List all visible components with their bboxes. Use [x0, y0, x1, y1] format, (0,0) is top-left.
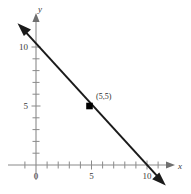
line-arrowhead-lower-right	[152, 173, 166, 186]
y-axis-arrowhead	[32, 13, 39, 22]
data-point-marker-5-5	[86, 103, 93, 110]
graph-figure: x y 0 5 10 5 10 (5,5)	[0, 0, 191, 194]
y-tick-label-10: 10	[19, 42, 29, 52]
y-tick-label-5: 5	[24, 101, 29, 111]
line-arrowhead-upper-left	[18, 23, 32, 36]
labels-group: x y 0 5 10 5 10 (5,5)	[19, 4, 182, 181]
origin-label: 0	[34, 171, 39, 181]
x-tick-label-5: 5	[89, 171, 94, 181]
data-point-group	[86, 103, 93, 110]
x-axis-arrowhead	[166, 161, 175, 168]
x-tick-label-10: 10	[143, 171, 153, 181]
x-axis-label: x	[177, 161, 182, 171]
coordinate-plane-svg: x y 0 5 10 5 10 (5,5)	[0, 0, 191, 194]
point-label-5-5: (5,5)	[96, 92, 112, 101]
y-axis-label: y	[37, 4, 42, 14]
axes-group	[8, 13, 175, 180]
